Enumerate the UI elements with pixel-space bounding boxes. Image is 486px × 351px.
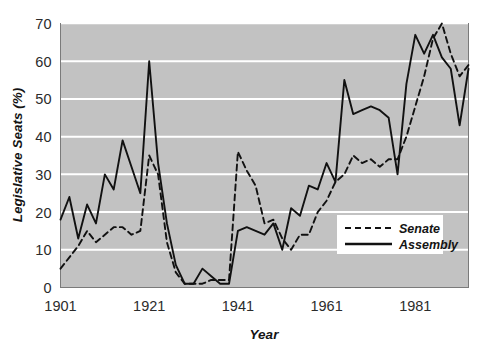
y-axis-title: Legislative Seats (%) <box>10 87 25 222</box>
line-chart: 010203040506070 19011921194119611981 Leg… <box>0 0 486 351</box>
y-tick-60: 60 <box>35 54 51 70</box>
x-axis-title: Year <box>250 327 280 342</box>
legend-label-assembly: Assembly <box>398 238 459 252</box>
chart-figure: 010203040506070 19011921194119611981 Leg… <box>0 0 486 351</box>
legend-label-senate: Senate <box>399 222 440 236</box>
legend: Senate Assembly <box>338 216 460 254</box>
x-tick-1901: 1901 <box>44 298 76 314</box>
y-tick-0: 0 <box>43 280 51 296</box>
y-tick-50: 50 <box>35 91 51 107</box>
y-tick-10: 10 <box>35 242 51 258</box>
y-tick-70: 70 <box>35 16 51 32</box>
x-tick-1981: 1981 <box>399 298 431 314</box>
x-tick-1921: 1921 <box>133 298 165 314</box>
x-tick-1941: 1941 <box>222 298 254 314</box>
y-tick-20: 20 <box>35 205 51 221</box>
y-tick-40: 40 <box>35 129 51 145</box>
y-tick-30: 30 <box>35 167 51 183</box>
x-tick-1961: 1961 <box>310 298 342 314</box>
